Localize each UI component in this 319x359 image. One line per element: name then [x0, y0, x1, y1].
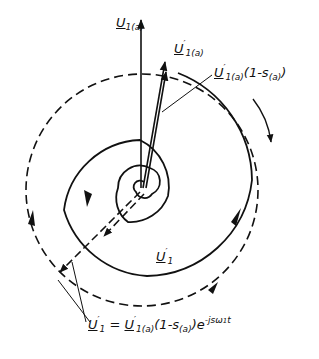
circle-arrow-left — [28, 210, 35, 226]
leader-slip-label — [162, 75, 212, 112]
leader-formula-2 — [58, 280, 90, 322]
label-u1a-prime-slip: U′1(a)(1-s(a)) — [214, 64, 286, 82]
formula-label: U′1 = U′1(a)(1-s(a))e-jsω1t — [88, 316, 231, 334]
label-u1a-prime: U′1(a) — [174, 40, 204, 58]
label-u1a: U1(a) — [116, 16, 144, 32]
rotation-arrow — [253, 99, 271, 142]
leader-formula-1 — [72, 262, 86, 322]
dashed-phasor-inner — [104, 194, 144, 236]
label-u1-prime: U′1 — [156, 248, 173, 266]
spiral-arrow-right — [231, 208, 241, 226]
circle-arrow-right — [208, 282, 218, 294]
phasor-spiral-diagram — [0, 0, 319, 359]
spiral-arrow-left — [84, 190, 92, 207]
